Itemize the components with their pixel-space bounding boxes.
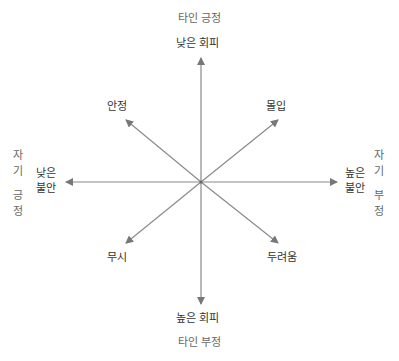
right-title-char: 부 bbox=[372, 190, 386, 206]
arrow-upper-left bbox=[126, 120, 201, 182]
right-title-char: 기 bbox=[372, 166, 386, 182]
right-pole-line: 높은 bbox=[345, 166, 365, 181]
top-axis-title: 타인 긍정 bbox=[178, 13, 222, 24]
right-pole-line: 불안 bbox=[345, 181, 365, 196]
left-title-char: 기 bbox=[11, 166, 25, 182]
left-title-char: 자 bbox=[11, 150, 25, 166]
left-title-char: 긍 bbox=[11, 190, 25, 206]
bottom-axis-title: 타인 부정 bbox=[178, 337, 222, 348]
left-axis-title: 자 기 긍 정 bbox=[11, 150, 25, 222]
right-title-char: 정 bbox=[372, 206, 386, 222]
arrow-lower-left bbox=[126, 182, 201, 243]
arrow-upper-right bbox=[201, 120, 278, 182]
bottom-pole-label: 높은 회피 bbox=[176, 313, 220, 324]
arrow-lower-right bbox=[201, 182, 278, 243]
left-title-char: 정 bbox=[11, 206, 25, 222]
right-axis-title: 자 기 부 정 bbox=[372, 150, 386, 222]
left-pole-line: 낮은 bbox=[36, 166, 56, 181]
left-pole-line: 불안 bbox=[36, 181, 56, 196]
top-pole-label: 낮은 회피 bbox=[176, 38, 220, 49]
quadrant-upper-left-label: 안정 bbox=[107, 101, 127, 112]
quadrant-lower-left-label: 무시 bbox=[107, 252, 127, 263]
quadrant-upper-right-label: 몰입 bbox=[266, 101, 286, 112]
quadrant-lower-right-label: 두려움 bbox=[267, 252, 297, 263]
center-point bbox=[200, 181, 203, 184]
right-pole-label: 높은 불안 bbox=[345, 166, 365, 196]
right-title-char: 자 bbox=[372, 150, 386, 166]
attachment-diagram bbox=[0, 0, 399, 361]
left-pole-label: 낮은 불안 bbox=[36, 166, 56, 196]
